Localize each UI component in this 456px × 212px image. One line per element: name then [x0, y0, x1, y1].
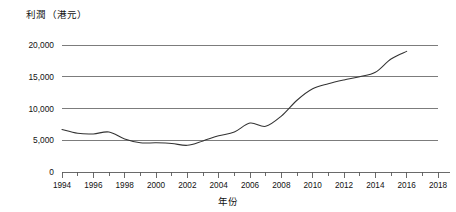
- x-tick-label: 2002: [178, 181, 197, 190]
- x-tick-label: 1996: [84, 181, 103, 190]
- x-tick-label: 2012: [335, 181, 354, 190]
- y-tick-label: 0: [49, 167, 54, 177]
- x-axis: [62, 172, 450, 178]
- y-tick-label: 15,000: [28, 72, 54, 82]
- x-tick-label: 2000: [147, 181, 166, 190]
- x-tick-label: 1998: [116, 181, 135, 190]
- x-tick-label: 2008: [272, 181, 291, 190]
- x-tick-label: 2018: [429, 181, 448, 190]
- line-chart: 利潤（港元） 05,00010,00015,00020,000 19941996…: [0, 0, 456, 212]
- chart-canvas: 05,00010,00015,00020,000 199419961998200…: [0, 0, 456, 212]
- y-tick-label: 10,000: [28, 104, 54, 114]
- x-tick-label: 2006: [241, 181, 260, 190]
- series-line-profit: [62, 51, 407, 145]
- x-tick-label: 2014: [366, 181, 385, 190]
- gridlines: [62, 45, 438, 140]
- x-tick-labels: 1994199619982000200220042006200820102012…: [53, 181, 448, 190]
- x-tick-label: 2016: [398, 181, 417, 190]
- x-tick-label: 1994: [53, 181, 72, 190]
- y-tick-labels: 05,00010,00015,00020,000: [28, 40, 54, 177]
- y-tick-label: 20,000: [28, 40, 54, 50]
- x-tick-label: 2010: [304, 181, 323, 190]
- y-tick-label: 5,000: [33, 135, 54, 145]
- x-axis-title: 年份: [0, 194, 456, 208]
- data-series: [62, 51, 407, 145]
- x-tick-label: 2004: [210, 181, 229, 190]
